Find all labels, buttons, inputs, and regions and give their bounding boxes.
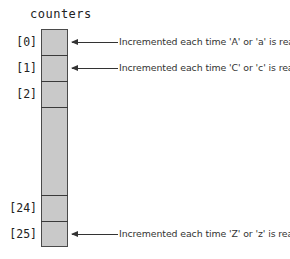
index-label-1: [1]: [16, 61, 37, 75]
annotation-25: Incremented each time 'Z' or 'z' is read: [119, 228, 290, 239]
cell-divider: [41, 81, 68, 82]
index-label-24: [24]: [9, 201, 37, 215]
arrow-left-icon: [72, 42, 118, 43]
annotation-0: Incremented each time 'A' or 'a' is read: [119, 36, 290, 47]
arrow-left-icon: [72, 234, 118, 235]
index-label-2: [2]: [16, 87, 37, 101]
cell-divider: [41, 107, 68, 108]
index-label-0: [0]: [16, 35, 37, 49]
annotation-1: Incremented each time 'C' or 'c' is read: [119, 62, 290, 73]
index-label-25: [25]: [9, 227, 37, 241]
cell-divider: [41, 195, 68, 196]
counters-array: [41, 29, 68, 247]
arrow-left-icon: [72, 68, 118, 69]
array-title: counters: [30, 7, 92, 21]
cell-divider: [41, 55, 68, 56]
cell-divider: [41, 221, 68, 222]
